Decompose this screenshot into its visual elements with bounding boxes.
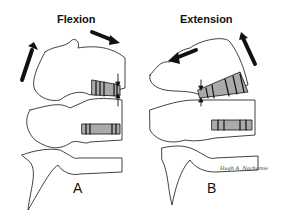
spine-illustration [0,0,281,221]
flexion-diagram [22,32,125,210]
extension-diagram [150,32,258,205]
